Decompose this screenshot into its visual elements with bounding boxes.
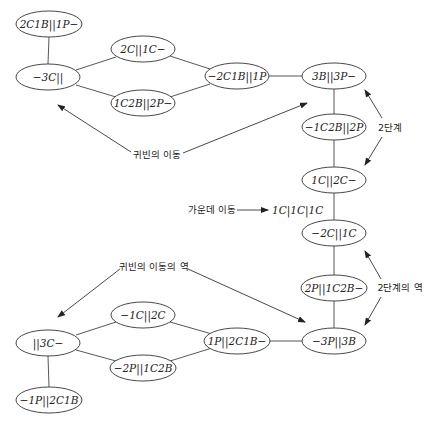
label-vip-move: 귀빈의 이동 — [133, 149, 181, 160]
svg-text:2C||1C−: 2C||1C− — [119, 43, 165, 57]
node-neg1C-2C: −1C||2C — [111, 302, 175, 328]
edge-n4-n5 — [170, 84, 210, 97]
arrow-step2-up — [365, 90, 382, 118]
svg-text:−1C2B||2P: −1C2B||2P — [305, 121, 365, 135]
svg-text:−2C||1C: −2C||1C — [311, 227, 356, 241]
svg-text:2P||1C2B−: 2P||1C2B− — [304, 282, 364, 296]
arrow-vip-inverse-right — [188, 269, 305, 322]
label-step2-inverse: 2단계의 역 — [377, 282, 422, 293]
edge-n12-n14 — [170, 348, 212, 361]
node-neg1C2B-2P: −1C2B||2P — [302, 114, 366, 140]
svg-text:2C1B||1P−: 2C1B||1P− — [19, 18, 79, 32]
svg-text:−2P||1C2B: −2P||1C2B — [114, 362, 173, 376]
svg-text:1C2B||2P−: 1C2B||2P− — [114, 97, 173, 111]
edge-n12-n13 — [170, 322, 212, 334]
svg-text:−1C||2C: −1C||2C — [120, 309, 165, 323]
state-transition-diagram: 2C1B||1P− −3C|| 2C||1C− 1C2B||2P− −2C1B|… — [0, 0, 434, 422]
node-neg2C1B-1P: −2C1B||1P — [205, 63, 269, 89]
arrow-step2-inverse-up — [365, 251, 381, 279]
node-3B-3P: 3B||3P− — [302, 63, 366, 89]
node-neg3C: −3C|| — [16, 64, 80, 90]
edge-n2-n4 — [76, 85, 116, 97]
edge-n1-n2 — [48, 37, 49, 64]
node-neg1P-2C1B: −1P||2C1B — [16, 387, 82, 413]
edge-n2-n3 — [76, 57, 116, 70]
node-2C-1C: 2C||1C− — [111, 36, 175, 62]
node-2P-1C2B: 2P||1C2B− — [301, 275, 367, 301]
svg-text:−1P||2C1B: −1P||2C1B — [20, 394, 79, 408]
svg-text:−2C1B||1P: −2C1B||1P — [208, 70, 268, 84]
arrow-vip-move-right — [183, 103, 307, 153]
edge-n14-n15 — [76, 350, 116, 361]
arrow-step2-down — [365, 137, 382, 165]
svg-text:−3P||3B: −3P||3B — [312, 335, 356, 349]
svg-text:3B||3P−: 3B||3P− — [312, 70, 356, 84]
node-2C1B-1P: 2C1B||1P− — [16, 11, 82, 37]
edge-n13-n15 — [76, 322, 116, 335]
svg-text:−3C||: −3C|| — [33, 71, 64, 85]
label-step2: 2단계 — [378, 122, 402, 133]
edge-n15-n16 — [48, 356, 49, 387]
node-neg2C-1C: −2C||1C — [302, 220, 366, 246]
node-neg3P-3B: −3P||3B — [302, 328, 366, 354]
node-1C-2C: 1C||2C− — [302, 167, 366, 193]
svg-text:1P||2C1B−: 1P||2C1B− — [208, 335, 267, 349]
node-neg2P-1C2B: −2P||1C2B — [110, 355, 176, 381]
svg-text:||3C−: ||3C− — [33, 337, 64, 351]
arrow-vip-inverse-left — [58, 269, 120, 317]
label-middle-state: 1C|1C|1C — [272, 204, 323, 218]
node-1C2B-2P: 1C2B||2P− — [111, 90, 175, 116]
node-1P-2C1B: 1P||2C1B− — [204, 328, 270, 354]
arrow-step2-inverse-down — [365, 297, 381, 325]
edge-n3-n5 — [170, 56, 210, 69]
annotation-labels: 귀빈의 이동 가운데 이동 1C|1C|1C 2단계 귀빈의 이동의 역 2단계… — [119, 122, 422, 293]
node-3C: ||3C− — [16, 330, 80, 356]
label-vip-move-inverse: 귀빈의 이동의 역 — [119, 261, 188, 272]
label-middle-move: 가운데 이동 — [188, 204, 236, 215]
svg-text:1C||2C−: 1C||2C− — [311, 174, 356, 188]
